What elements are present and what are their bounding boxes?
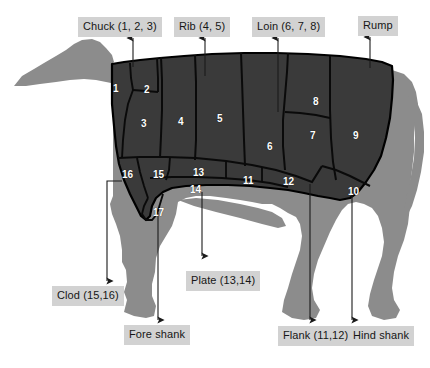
cut-number-12: 12 xyxy=(283,177,294,187)
cut-number-17: 17 xyxy=(153,208,164,218)
cut-number-13: 13 xyxy=(193,168,204,178)
callout-label-loin[interactable]: Loin (6, 7, 8) xyxy=(252,17,325,37)
carcass-illustration xyxy=(0,0,430,368)
cut-number-5: 5 xyxy=(217,114,223,124)
callout-label-clod[interactable]: Clod (15,16) xyxy=(52,286,124,306)
callout-label-fore-shank[interactable]: Fore shank xyxy=(124,325,190,345)
cut-number-7: 7 xyxy=(310,131,316,141)
callout-label-hind-shank[interactable]: Hind shank xyxy=(348,326,414,346)
cut-number-15: 15 xyxy=(153,170,164,180)
cut-number-3: 3 xyxy=(141,119,147,129)
cut-number-8: 8 xyxy=(313,97,319,107)
beef-cuts-diagram: Chuck (1, 2, 3) Rib (4, 5) Loin (6, 7, 8… xyxy=(0,0,430,368)
cut-number-10: 10 xyxy=(348,187,359,197)
cut-number-16: 16 xyxy=(122,170,133,180)
cut-number-9: 9 xyxy=(353,131,359,141)
callout-label-chuck[interactable]: Chuck (1, 2, 3) xyxy=(78,17,162,37)
callout-label-rump[interactable]: Rump xyxy=(358,16,398,36)
cut-number-14: 14 xyxy=(190,185,201,195)
cut-number-11: 11 xyxy=(243,176,254,186)
callout-label-rib[interactable]: Rib (4, 5) xyxy=(174,17,230,37)
cut-number-1: 1 xyxy=(113,84,119,94)
cut-number-2: 2 xyxy=(144,85,150,95)
cut-number-4: 4 xyxy=(178,117,184,127)
callout-label-flank[interactable]: Flank (11,12) xyxy=(278,326,353,346)
cut-number-6: 6 xyxy=(267,142,273,152)
callout-label-plate[interactable]: Plate (13,14) xyxy=(186,271,260,291)
